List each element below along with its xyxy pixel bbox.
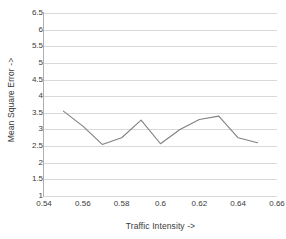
x-tick-label: 0.64 [223,200,253,208]
x-tick-label: 0.56 [68,200,98,208]
x-tick-label: 0.6 [146,200,176,208]
y-tick-label: 2.5 [17,142,43,150]
plot-area [44,13,277,196]
x-axis-title: Traffic Intensity -> [44,221,277,231]
x-tick-label: 0.58 [107,200,137,208]
series-line-mean-square-error [44,13,277,196]
y-tick-label: 5.5 [17,42,43,50]
y-tick-label: 6 [17,26,43,34]
y-tick-label: 2 [17,159,43,167]
y-tick-label: 5 [17,59,43,67]
x-tick-label: 0.54 [29,200,59,208]
y-tick-label: 3.5 [17,109,43,117]
x-tick-label: 0.62 [184,200,214,208]
y-tick-label: 6.5 [17,9,43,17]
gridline [44,196,277,197]
y-axis-title-label: Mean Square Error -> [6,58,16,142]
y-tick-label: 3 [17,125,43,133]
y-tick-label: 4 [17,92,43,100]
y-tick-label: 4.5 [17,76,43,84]
chart-container: Mean Square Error -> 11.522.533.544.555.… [0,0,286,239]
y-tick-label: 1.5 [17,175,43,183]
x-tick-label: 0.66 [262,200,286,208]
